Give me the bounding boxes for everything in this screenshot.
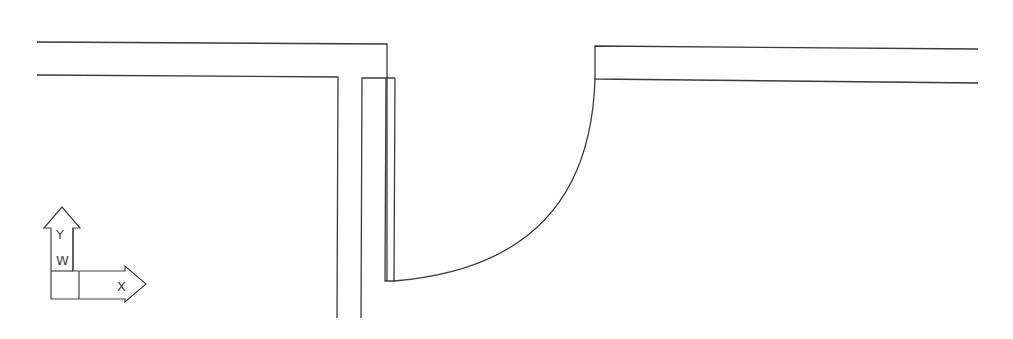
partition-wall-line[interactable] bbox=[361, 78, 395, 318]
partition-wall[interactable] bbox=[361, 78, 395, 318]
left-wall-inner-line[interactable] bbox=[37, 75, 338, 318]
door-swing-arc[interactable] bbox=[394, 78, 595, 281]
right-wall[interactable] bbox=[595, 46, 978, 83]
cad-drawing-canvas[interactable]: Y W X bbox=[0, 0, 1013, 339]
left-wall[interactable] bbox=[37, 42, 387, 318]
ucs-x-label: X bbox=[117, 279, 126, 294]
ucs-y-label: Y bbox=[55, 227, 64, 242]
ucs-w-label: W bbox=[56, 253, 69, 268]
ucs-icon: Y W X bbox=[44, 207, 146, 302]
left-wall-outer-line[interactable] bbox=[37, 42, 387, 281]
right-wall-lines[interactable] bbox=[595, 46, 978, 83]
